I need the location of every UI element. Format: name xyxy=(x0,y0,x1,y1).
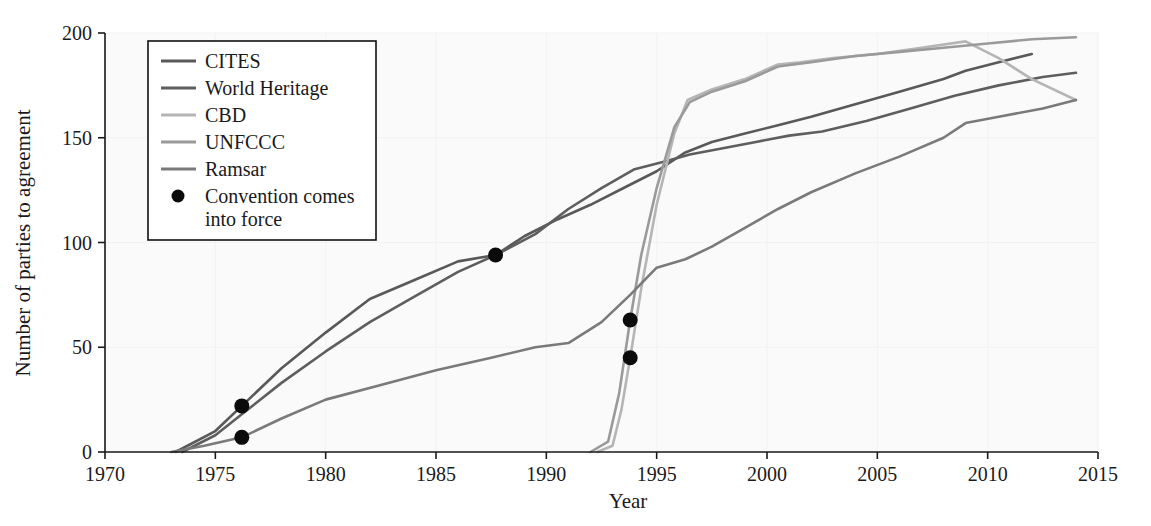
y-tick-label: 100 xyxy=(62,232,92,254)
x-tick-label: 2005 xyxy=(857,463,897,485)
x-tick-label: 2015 xyxy=(1078,463,1118,485)
legend-label: into force xyxy=(205,208,282,230)
x-tick-label: 1995 xyxy=(637,463,677,485)
y-axis-tick-labels: 050100150200 xyxy=(62,22,92,463)
chart-figure: 1970197519801985199019952000200520102015… xyxy=(0,0,1151,526)
x-tick-label: 1985 xyxy=(416,463,456,485)
x-tick-label: 1980 xyxy=(306,463,346,485)
x-axis-title: Year xyxy=(609,489,648,513)
y-axis-title: Number of parties to agreement xyxy=(11,109,35,376)
legend-label: Ramsar xyxy=(205,158,266,180)
y-tick-label: 50 xyxy=(72,336,92,358)
legend-label: UNFCCC xyxy=(205,131,285,153)
legend-swatch-convention-dot xyxy=(172,190,185,203)
convention-force-dot xyxy=(488,248,503,263)
legend-label: CITES xyxy=(205,50,261,72)
line-chart: 1970197519801985199019952000200520102015… xyxy=(0,0,1151,526)
y-tick-label: 0 xyxy=(82,441,92,463)
convention-force-dot xyxy=(623,350,638,365)
x-tick-label: 2000 xyxy=(747,463,787,485)
convention-force-dot xyxy=(234,430,249,445)
x-tick-label: 1970 xyxy=(85,463,125,485)
x-tick-label: 2010 xyxy=(968,463,1008,485)
legend-label: CBD xyxy=(205,104,246,126)
x-tick-label: 1990 xyxy=(526,463,566,485)
chart-legend: CITESWorld HeritageCBDUNFCCCRamsarConven… xyxy=(148,41,376,240)
convention-force-dot xyxy=(623,313,638,328)
x-axis-tick-labels: 1970197519801985199019952000200520102015 xyxy=(85,463,1118,485)
legend-label: World Heritage xyxy=(205,77,328,100)
legend-label: Convention comes xyxy=(205,185,355,207)
y-tick-label: 150 xyxy=(62,127,92,149)
x-tick-label: 1975 xyxy=(195,463,235,485)
convention-force-dot xyxy=(234,398,249,413)
y-tick-label: 200 xyxy=(62,22,92,44)
